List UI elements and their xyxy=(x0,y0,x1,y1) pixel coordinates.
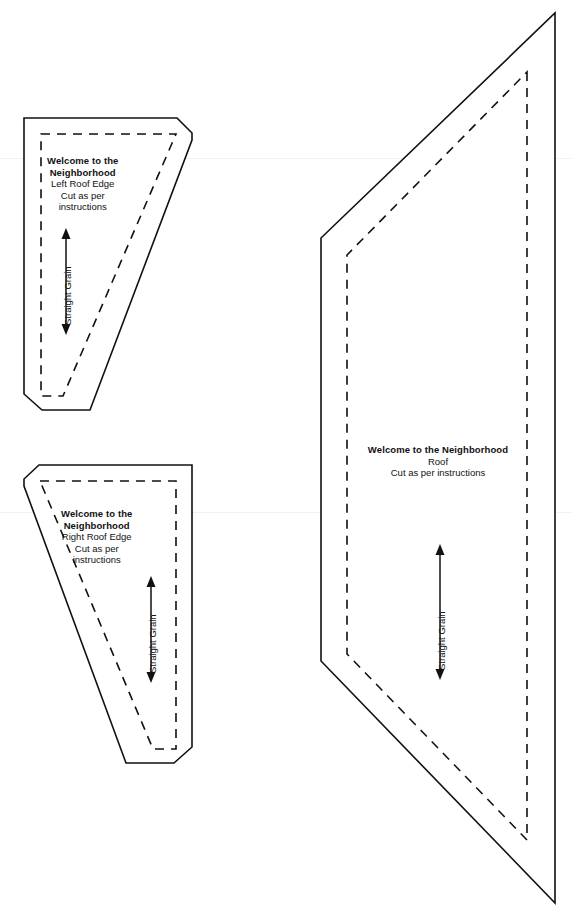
left-roof-edge-instruction-line2: instructions xyxy=(47,201,118,213)
left-roof-edge-instruction-line1: Cut as per xyxy=(47,190,118,202)
left-roof-edge-grain-label: Straight Grain xyxy=(62,266,73,325)
right-roof-edge-pattern-name-line2: Neighborhood xyxy=(61,520,132,532)
pattern-sheet: Welcome to the Neighborhood Left Roof Ed… xyxy=(0,0,572,911)
left-roof-edge-label-group: Welcome to the Neighborhood Left Roof Ed… xyxy=(47,155,118,213)
right-roof-edge-piece-label: Right Roof Edge xyxy=(61,531,132,543)
right-roof-edge-pattern-name-line1: Welcome to the xyxy=(61,508,132,520)
roof-instruction-line1: Cut as per instructions xyxy=(348,467,528,479)
roof-piece-label: Roof xyxy=(348,456,528,468)
right-roof-edge-label-group: Welcome to the Neighborhood Right Roof E… xyxy=(61,508,132,566)
roof-grain-label: Straight Grain xyxy=(436,611,447,670)
right-roof-edge-instruction-line2: instructions xyxy=(61,554,132,566)
roof-pattern-name: Welcome to the Neighborhood xyxy=(348,444,528,456)
left-roof-edge-piece-label: Left Roof Edge xyxy=(47,178,118,190)
roof-label-group: Welcome to the Neighborhood Roof Cut as … xyxy=(348,444,528,479)
left-roof-edge-pattern-name-line1: Welcome to the xyxy=(47,155,118,167)
right-roof-edge-grain-label: Straight Grain xyxy=(147,614,158,673)
left-roof-edge-pattern-name-line2: Neighborhood xyxy=(47,167,118,179)
right-roof-edge-instruction-line1: Cut as per xyxy=(61,543,132,555)
